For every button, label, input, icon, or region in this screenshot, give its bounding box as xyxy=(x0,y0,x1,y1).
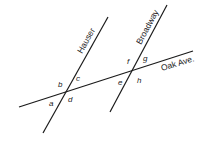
angle-d-label: d xyxy=(68,95,73,104)
broadway-label: Broadway xyxy=(134,7,161,46)
angle-c-label: c xyxy=(76,74,80,83)
angle-h-label: h xyxy=(137,76,142,85)
angle-f-label: f xyxy=(127,57,130,66)
angle-b-label: b xyxy=(58,80,63,89)
hauser-label: Hauser xyxy=(75,26,97,55)
broadway-street-line xyxy=(110,5,167,112)
angle-e-label: e xyxy=(118,78,123,87)
oak-ave-line xyxy=(19,51,193,107)
angle-a-label: a xyxy=(49,99,54,108)
street-angle-diagram: Hauser Broadway Oak Ave. a b c d e f g h xyxy=(0,0,214,147)
angle-g-label: g xyxy=(143,54,148,63)
